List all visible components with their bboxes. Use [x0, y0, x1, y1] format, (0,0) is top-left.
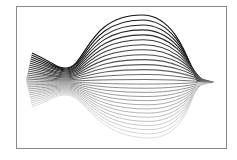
stacked-line-figure: [0, 0, 237, 160]
